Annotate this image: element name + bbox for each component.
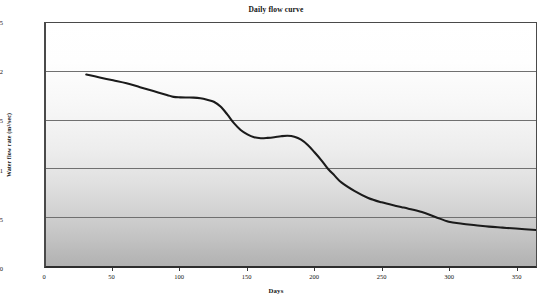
x-tick-mark	[382, 268, 383, 271]
y-tick-label: 1	[0, 166, 3, 173]
x-tick-mark	[449, 268, 450, 271]
x-tick-label: 0	[29, 273, 59, 280]
x-tick-mark	[314, 268, 315, 271]
x-tick-label: 250	[367, 273, 397, 280]
x-tick-mark	[517, 268, 518, 271]
x-tick-label: 350	[502, 273, 532, 280]
x-axis-title: Days	[0, 287, 552, 294]
y-tick-label: 2	[0, 68, 3, 75]
y-tick-label: 0	[0, 265, 3, 272]
x-tick-label: 200	[299, 273, 329, 280]
y-tick-label: 1,5	[0, 117, 3, 124]
x-tick-mark	[112, 268, 113, 271]
chart-container: Daily flow curve Water flow rate (m³/sec…	[0, 0, 552, 304]
x-tick-label: 50	[97, 273, 127, 280]
x-tick-mark	[179, 268, 180, 271]
chart-title: Daily flow curve	[0, 5, 552, 14]
y-tick-label: 0,5	[0, 215, 3, 222]
x-tick-label: 300	[434, 273, 464, 280]
y-axis-title: Water flow rate (m³/sec)	[6, 113, 12, 177]
x-tick-label: 100	[164, 273, 194, 280]
flow-curve-line	[86, 75, 536, 231]
plot-area	[44, 22, 537, 268]
x-tick-label: 150	[232, 273, 262, 280]
x-tick-mark	[247, 268, 248, 271]
y-tick-label: 2,5	[0, 19, 3, 26]
flow-curve-plot	[46, 23, 536, 266]
